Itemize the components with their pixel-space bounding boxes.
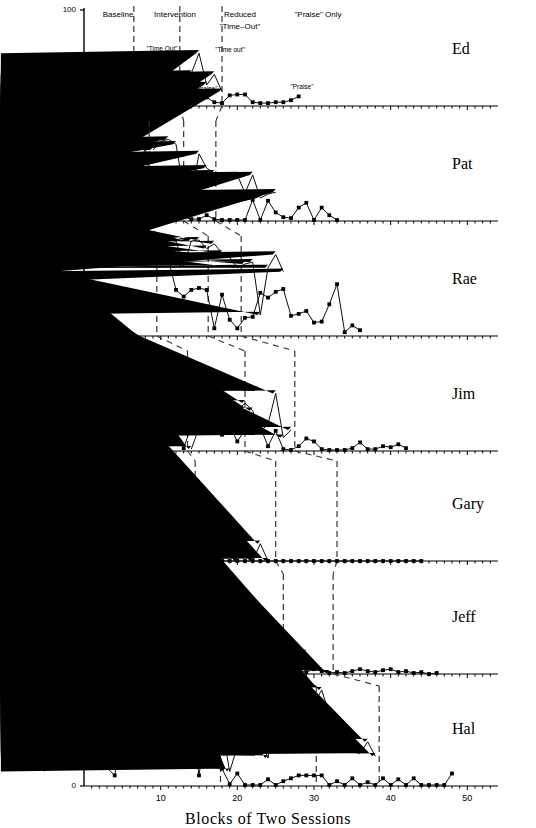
subject-label-rae: Rae — [452, 270, 477, 288]
y-tick-label: 50 — [52, 168, 76, 177]
y-tick-label: 50 — [52, 283, 76, 292]
annotation-2: "Praise" — [148, 85, 188, 92]
subject-label-jeff: Jeff — [452, 608, 476, 626]
y-tick-label: 0 — [52, 101, 76, 110]
x-tick-label: 50 — [454, 793, 480, 803]
annotation-0: "Time Out" — [142, 45, 182, 52]
x-axis-title: Blocks of Two Sessions — [0, 810, 536, 828]
y-tick-label: 50 — [52, 53, 76, 62]
y-tick-label: 100 — [52, 350, 76, 359]
subject-label-pat: Pat — [452, 155, 472, 173]
y-tick-label: 100 — [52, 120, 76, 129]
y-tick-label: 50 — [52, 398, 76, 407]
y-tick-label: 0 — [52, 446, 76, 455]
panel-axis-label-gary: Tantrums — [42, 515, 51, 547]
y-tick-label: 0 — [52, 781, 76, 790]
annotation-3: "Praise" — [186, 85, 226, 92]
y-tick-label: 100 — [52, 235, 76, 244]
y-tick-label: 50 — [52, 621, 76, 630]
subject-label-hal: Hal — [452, 720, 475, 738]
y-tick-label: 50 — [52, 733, 76, 742]
subject-label-ed: Ed — [452, 40, 470, 58]
annotation-1: "Time out" — [210, 46, 250, 53]
panel-axis-label-pat: Tantrums — [42, 175, 51, 207]
x-tick-label: 30 — [301, 793, 327, 803]
panel-axis-label-jeff: Tantrums — [42, 628, 51, 660]
y-tick-label: 100 — [52, 685, 76, 694]
phase-header-3: "Time–Out" — [200, 22, 280, 31]
y-tick-label: 50 — [52, 508, 76, 517]
y-tick-label: 100 — [52, 573, 76, 582]
x-tick-label: 40 — [378, 793, 404, 803]
y-tick-label: 100 — [52, 460, 76, 469]
subject-label-gary: Gary — [452, 495, 484, 513]
y-tick-label: 0 — [52, 669, 76, 678]
y-tick-label: 0 — [52, 216, 76, 225]
subject-label-jim: Jim — [452, 385, 475, 403]
x-tick-label: 10 — [148, 793, 174, 803]
panel-axis-label-rae: Self–Injury — [42, 284, 51, 322]
annotation-4: "Praise" — [282, 83, 322, 90]
y-tick-label: 100 — [52, 5, 76, 14]
phase-header-2: Reduced — [200, 10, 280, 19]
x-tick-label: 20 — [224, 793, 250, 803]
y-tick-label: 0 — [52, 556, 76, 565]
panel-axis-label-jim: Aggression — [42, 397, 51, 437]
y-axis-label: Percent of Intervals — Problem Behavior — [0, 0, 26, 26]
y-tick-label: 0 — [52, 331, 76, 340]
phase-header-4: "Praise" Only — [278, 10, 358, 19]
y-axis-label-container: Percent of Intervals — Problem Behavior — [0, 0, 26, 822]
panel-axis-label-hal: Tantrums — [42, 740, 51, 772]
panel-axis-label-ed: Aggression — [42, 52, 51, 92]
